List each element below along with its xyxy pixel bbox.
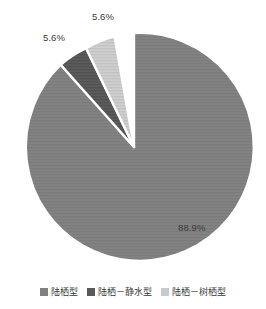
legend-label-arboreal: 陆栖－树栖型 [172,288,226,297]
legend-swatch-icon-arboreal [161,288,169,296]
chart-legend: 陆栖型 陆栖－静水型 陆栖－树栖型 [0,282,266,302]
pie-chart-figure: 5.6% 5.6% 88.9% 陆栖型 陆栖－静水型 陆栖－树栖型 [0,0,266,309]
legend-label-still-water: 陆栖－静水型 [98,288,152,297]
slice-value-label-still-water: 5.6% [43,32,65,43]
legend-item-terrestrial[interactable]: 陆栖型 [40,288,78,297]
pie-slice-terrestrial[interactable] [26,33,254,261]
legend-label-terrestrial: 陆栖型 [51,288,78,297]
slice-value-label-terrestrial: 88.9% [178,222,205,233]
legend-swatch-icon-terrestrial [40,288,48,296]
legend-swatch-icon-still-water [87,288,95,296]
pie-plot-area: 5.6% 5.6% 88.9% [0,0,266,272]
slice-value-label-arboreal: 5.6% [92,11,114,22]
legend-item-still-water[interactable]: 陆栖－静水型 [87,288,152,297]
pie-svg [0,0,266,272]
legend-item-arboreal[interactable]: 陆栖－树栖型 [161,288,226,297]
